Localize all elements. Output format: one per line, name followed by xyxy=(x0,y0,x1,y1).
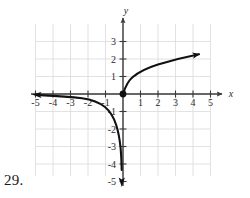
y-tick-3: 3 xyxy=(111,36,116,47)
y-axis-label: y xyxy=(123,5,129,16)
x-tick--3: -3 xyxy=(66,97,74,108)
curve-right-branch xyxy=(123,54,199,94)
coordinate-plane-svg: -5 -4 -3 -2 -1 1 2 3 4 5 3 2 1 -1 -2 -3 … xyxy=(0,0,250,198)
x-tick-1: 1 xyxy=(138,97,143,108)
y-tick--3: -3 xyxy=(108,141,116,152)
x-tick-4: 4 xyxy=(191,97,196,108)
x-axis-label: x xyxy=(228,88,234,99)
problem-number-label: 29. xyxy=(4,172,23,189)
y-tick-1: 1 xyxy=(111,71,116,82)
x-tick-5: 5 xyxy=(208,97,213,108)
graph-figure: -5 -4 -3 -2 -1 1 2 3 4 5 3 2 1 -1 -2 -3 … xyxy=(0,0,250,198)
origin-point-dot xyxy=(120,91,127,98)
bottom-branch-arrowhead-icon xyxy=(119,178,125,187)
y-tick--5: -5 xyxy=(108,176,116,187)
y-tick--4: -4 xyxy=(108,159,116,170)
y-tick-2: 2 xyxy=(111,54,116,65)
x-tick-2: 2 xyxy=(156,97,161,108)
y-tick--2: -2 xyxy=(108,124,116,135)
x-tick--4: -4 xyxy=(49,97,57,108)
x-tick-3: 3 xyxy=(173,97,178,108)
x-axis-tick-labels: -5 -4 -3 -2 -1 1 2 3 4 5 xyxy=(31,97,213,108)
x-tick--5: -5 xyxy=(31,97,39,108)
